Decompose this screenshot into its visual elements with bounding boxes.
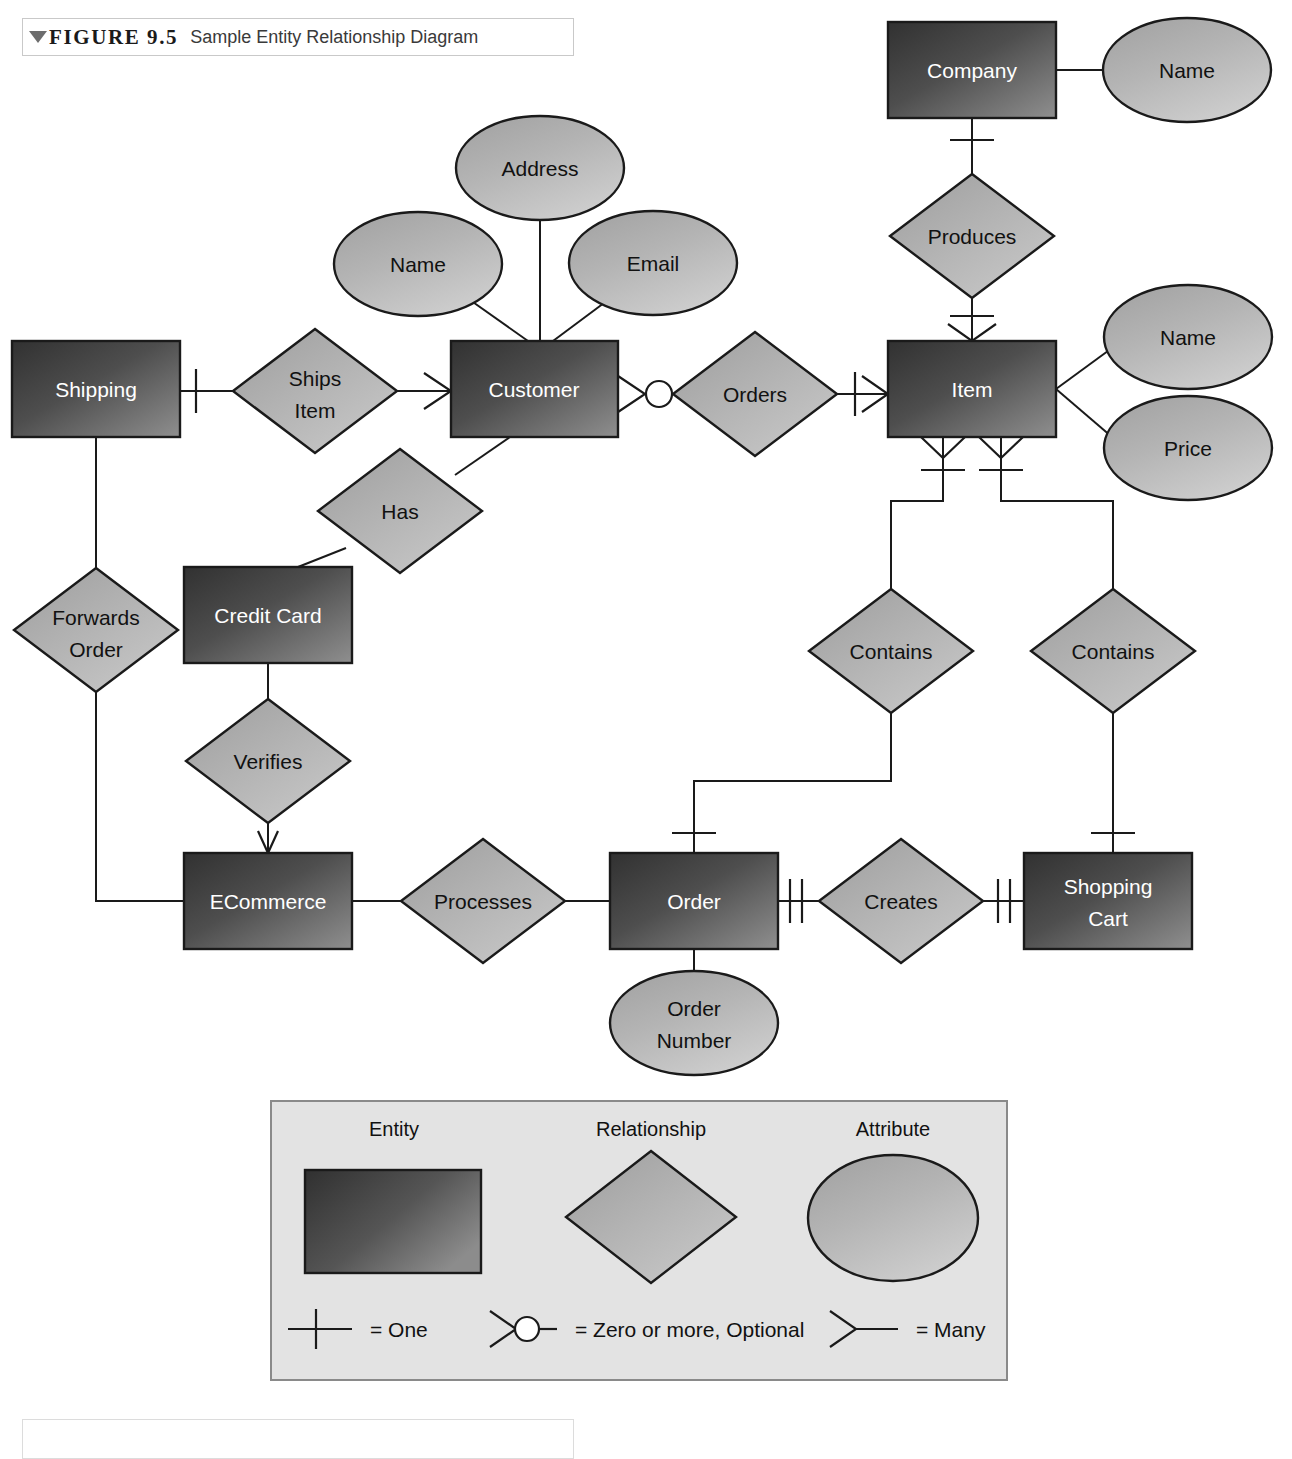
relationship-label: Produces bbox=[928, 225, 1017, 248]
link-item-name bbox=[1056, 348, 1112, 389]
attribute-order-number[interactable]: Order Number bbox=[610, 971, 778, 1075]
entity-label: ECommerce bbox=[210, 890, 327, 913]
relationship-produces[interactable]: Produces bbox=[890, 174, 1054, 298]
legend-sample-attribute bbox=[808, 1155, 978, 1281]
relationship-label-line2: Order bbox=[69, 638, 123, 661]
legend-notation-many-label: = Many bbox=[916, 1318, 986, 1341]
relationship-processes[interactable]: Processes bbox=[401, 839, 565, 963]
attribute-company-name[interactable]: Name bbox=[1103, 18, 1271, 122]
attribute-label: Name bbox=[1160, 326, 1216, 349]
relationship-has[interactable]: Has bbox=[318, 449, 482, 573]
relationship-label: Verifies bbox=[234, 750, 303, 773]
relationship-contains-right[interactable]: Contains bbox=[1031, 589, 1195, 713]
attribute-label-line1: Order bbox=[667, 997, 721, 1020]
relationship-contains-left[interactable]: Contains bbox=[809, 589, 973, 713]
entity-label: Item bbox=[952, 378, 993, 401]
link-customer-name bbox=[470, 300, 528, 341]
legend-panel: Entity Relationship Attribute = One = Ze… bbox=[271, 1101, 1007, 1380]
attribute-customer-email[interactable]: Email bbox=[569, 211, 737, 315]
relationship-label: Contains bbox=[850, 640, 933, 663]
entity-item[interactable]: Item bbox=[888, 341, 1056, 437]
entity-label-line1: Shopping bbox=[1064, 875, 1153, 898]
legend-notation-zero-label: = Zero or more, Optional bbox=[575, 1318, 804, 1341]
link-has-creditcard bbox=[298, 548, 346, 567]
relationship-label: Processes bbox=[434, 890, 532, 913]
legend-heading-entity: Entity bbox=[369, 1118, 419, 1140]
attribute-label: Price bbox=[1164, 437, 1212, 460]
entity-shopping-cart[interactable]: Shopping Cart bbox=[1024, 853, 1192, 949]
link-customer-email bbox=[553, 300, 608, 341]
link-item-price bbox=[1056, 389, 1112, 437]
relationship-orders[interactable]: Orders bbox=[673, 332, 837, 456]
relationship-verifies[interactable]: Verifies bbox=[186, 699, 350, 823]
bottom-caption-stub bbox=[22, 1419, 574, 1459]
relationship-label-line1: Forwards bbox=[52, 606, 140, 629]
entity-label: Order bbox=[667, 890, 721, 913]
legend-notation-one-label: = One bbox=[370, 1318, 428, 1341]
entity-company[interactable]: Company bbox=[888, 22, 1056, 118]
entity-label-line2: Cart bbox=[1088, 907, 1128, 930]
relationship-creates[interactable]: Creates bbox=[819, 839, 983, 963]
relationship-label-line1: Ships bbox=[289, 367, 342, 390]
relationship-label: Creates bbox=[864, 890, 938, 913]
legend-heading-attribute: Attribute bbox=[856, 1118, 930, 1140]
entity-credit-card[interactable]: Credit Card bbox=[184, 567, 352, 663]
link-item-contains-left bbox=[891, 437, 943, 589]
attribute-label: Address bbox=[501, 157, 578, 180]
relationship-label: Orders bbox=[723, 383, 787, 406]
attribute-label: Email bbox=[627, 252, 680, 275]
link-item-contains-right bbox=[1001, 437, 1113, 589]
link-contains-left-order bbox=[694, 713, 891, 853]
entity-label: Company bbox=[927, 59, 1017, 82]
relationship-label-line2: Item bbox=[295, 399, 336, 422]
entity-label: Shipping bbox=[55, 378, 137, 401]
entity-order[interactable]: Order bbox=[610, 853, 778, 949]
relationship-forwards-order[interactable]: Forwards Order bbox=[14, 568, 178, 692]
attribute-item-price[interactable]: Price bbox=[1104, 396, 1272, 500]
attribute-label: Name bbox=[1159, 59, 1215, 82]
entity-shipping[interactable]: Shipping bbox=[12, 341, 180, 437]
relationship-label: Contains bbox=[1072, 640, 1155, 663]
attribute-customer-name[interactable]: Name bbox=[334, 212, 502, 316]
attribute-label-line2: Number bbox=[657, 1029, 732, 1052]
entity-ecommerce[interactable]: ECommerce bbox=[184, 853, 352, 949]
entity-label: Customer bbox=[488, 378, 579, 401]
attribute-customer-address[interactable]: Address bbox=[456, 116, 624, 220]
legend-sample-entity bbox=[305, 1170, 481, 1273]
zero-circle-icon-legend bbox=[515, 1317, 539, 1341]
entity-customer[interactable]: Customer bbox=[451, 341, 618, 437]
zero-circle-icon-customer-orders bbox=[646, 381, 672, 407]
entity-label: Credit Card bbox=[214, 604, 321, 627]
crowsfoot-icon-customer-orders bbox=[618, 376, 645, 412]
relationship-label: Has bbox=[381, 500, 418, 523]
relationship-ships-item[interactable]: Ships Item bbox=[233, 329, 397, 453]
link-forwards-ecommerce bbox=[96, 692, 184, 901]
attribute-label: Name bbox=[390, 253, 446, 276]
link-customer-has bbox=[455, 437, 510, 475]
legend-heading-relationship: Relationship bbox=[596, 1118, 706, 1140]
attribute-item-name[interactable]: Name bbox=[1104, 285, 1272, 389]
